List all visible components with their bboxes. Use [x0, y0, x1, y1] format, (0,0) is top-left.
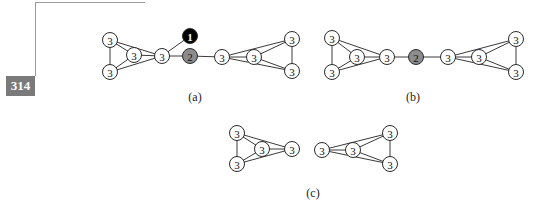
- node-value: 3: [289, 34, 295, 46]
- node-value: 3: [513, 67, 519, 79]
- node-value: 3: [445, 52, 451, 64]
- subfigure-label: (b): [406, 90, 420, 104]
- graph-node-white: 3: [383, 157, 398, 172]
- node-value: 3: [329, 33, 335, 45]
- graph-node-white: 3: [441, 50, 456, 65]
- graph-node-white: 3: [472, 50, 487, 65]
- graph-node-white: 3: [315, 143, 330, 158]
- node-value: 2: [187, 51, 193, 63]
- graph-figure: 3333123333(a)333323333(b)33333333(c): [0, 0, 535, 211]
- node-value: 3: [350, 145, 356, 157]
- node-value: 3: [384, 52, 390, 64]
- node-value: 3: [354, 52, 360, 64]
- subfigure-label: (c): [306, 186, 319, 200]
- node-value: 3: [387, 159, 393, 171]
- graph-node-gray: 2: [183, 49, 198, 64]
- node-value: 1: [187, 31, 193, 43]
- node-value: 3: [476, 52, 482, 64]
- graph-node-white: 3: [350, 50, 365, 65]
- node-value: 3: [219, 52, 225, 64]
- graph-node-white: 3: [285, 142, 300, 157]
- node-value: 3: [513, 34, 519, 46]
- graph-node-white: 3: [127, 48, 142, 63]
- graph-node-white: 3: [285, 64, 300, 79]
- node-value: 3: [107, 67, 113, 79]
- graph-node-black: 1: [183, 29, 198, 44]
- graph-node-white: 3: [155, 49, 170, 64]
- node-value: 3: [319, 145, 325, 157]
- subfigure-c: 33333333(c): [230, 126, 398, 201]
- graph-node-white: 3: [247, 50, 262, 65]
- node-value: 3: [251, 52, 257, 64]
- node-value: 3: [289, 66, 295, 78]
- node-value: 3: [234, 128, 240, 140]
- node-value: 3: [387, 128, 393, 140]
- graph-node-white: 3: [285, 32, 300, 47]
- graph-node-white: 3: [325, 31, 340, 46]
- graph-node-white: 3: [509, 65, 524, 80]
- graph-node-white: 3: [103, 33, 118, 48]
- graph-node-white: 3: [215, 50, 230, 65]
- node-value: 3: [329, 67, 335, 79]
- subfigure-a: 3333123333(a): [103, 29, 300, 105]
- graph-node-white: 3: [230, 157, 245, 172]
- graph-node-white: 3: [346, 143, 361, 158]
- node-value: 3: [259, 144, 265, 156]
- graph-node-gray: 2: [409, 50, 424, 65]
- node-value: 3: [234, 159, 240, 171]
- node-value: 3: [289, 144, 295, 156]
- node-value: 3: [131, 50, 137, 62]
- graph-node-white: 3: [230, 126, 245, 141]
- graph-node-white: 3: [255, 142, 270, 157]
- graph-node-white: 3: [383, 126, 398, 141]
- node-value: 3: [107, 35, 113, 47]
- graph-node-white: 3: [380, 50, 395, 65]
- node-value: 2: [413, 52, 419, 64]
- graph-node-white: 3: [103, 65, 118, 80]
- graph-node-white: 3: [325, 65, 340, 80]
- subfigure-label: (a): [188, 90, 201, 104]
- subfigure-b: 333323333(b): [325, 31, 524, 105]
- node-value: 3: [159, 51, 165, 63]
- graph-node-white: 3: [509, 32, 524, 47]
